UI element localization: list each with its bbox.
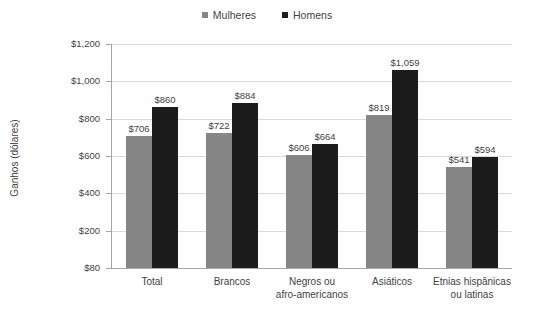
category-label-line: Etnias hispânicas <box>422 275 522 288</box>
y-axis-tick <box>106 268 112 269</box>
bar-value-label: $706 <box>128 123 149 134</box>
bar-mulheres-0[interactable]: $706 <box>126 136 152 268</box>
y-axis-tick <box>106 156 112 157</box>
bar-value-label: $594 <box>474 144 495 155</box>
bar-value-label: $860 <box>154 94 175 105</box>
gridline <box>112 81 512 82</box>
y-axis-tick <box>106 119 112 120</box>
bar-value-label: $664 <box>314 131 335 142</box>
legend-item-mulheres[interactable]: Mulheres <box>202 10 256 21</box>
plot-area: $706$860$722$884$606$664$819$1,059$541$5… <box>112 44 512 268</box>
legend-swatch-icon <box>282 12 288 18</box>
gridline <box>112 44 512 45</box>
category-label-line: ou latinas <box>422 288 522 301</box>
bar-mulheres-2[interactable]: $606 <box>286 155 312 268</box>
bar-homens-3[interactable]: $1,059 <box>392 70 418 268</box>
chart-legend: MulheresHomens <box>0 10 534 21</box>
legend-swatch-icon <box>202 12 208 18</box>
legend-label: Mulheres <box>213 10 256 21</box>
bar-value-label: $1,059 <box>390 57 419 68</box>
x-axis-category-label: Etnias hispânicasou latinas <box>422 275 522 301</box>
bar-value-label: $884 <box>234 90 255 101</box>
bar-homens-0[interactable]: $860 <box>152 107 178 268</box>
category-label-line: afro-americanos <box>262 288 362 301</box>
legend-item-homens[interactable]: Homens <box>282 10 332 21</box>
bar-mulheres-3[interactable]: $819 <box>366 115 392 268</box>
bar-homens-2[interactable]: $664 <box>312 144 338 268</box>
bar-value-label: $819 <box>368 102 389 113</box>
y-axis-tick <box>106 231 112 232</box>
y-axis-tick-label: $1,200 <box>0 38 100 49</box>
bar-value-label: $541 <box>448 154 469 165</box>
bar-chart: MulheresHomens Ganhos (dólares) $706$860… <box>0 0 534 327</box>
y-axis-tick <box>106 193 112 194</box>
bar-homens-4[interactable]: $594 <box>472 157 498 268</box>
bar-mulheres-4[interactable]: $541 <box>446 167 472 268</box>
y-axis-tick-label: $1,000 <box>0 75 100 86</box>
y-axis-tick-label: $600 <box>0 150 100 161</box>
bar-value-label: $606 <box>288 142 309 153</box>
y-axis-tick <box>106 44 112 45</box>
y-axis-tick-label: $80 <box>0 262 100 273</box>
y-axis-tick-label: $800 <box>0 113 100 124</box>
bar-mulheres-1[interactable]: $722 <box>206 133 232 268</box>
axis-baseline <box>112 268 512 269</box>
y-axis-tick-label: $200 <box>0 225 100 236</box>
y-axis-tick-label: $400 <box>0 187 100 198</box>
y-axis-tick <box>106 81 112 82</box>
legend-label: Homens <box>293 10 332 21</box>
bar-value-label: $722 <box>208 120 229 131</box>
bar-homens-1[interactable]: $884 <box>232 103 258 268</box>
